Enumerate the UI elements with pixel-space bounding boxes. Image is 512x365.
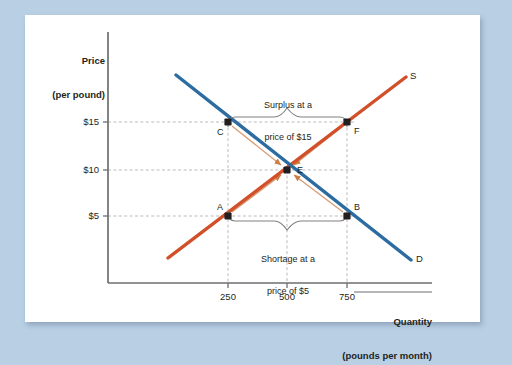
y-axis-title: Price (per pound) — [31, 33, 105, 123]
surplus-annotation: Surplus at a price of $15 — [238, 79, 338, 164]
surplus-annotation-line2: price of $15 — [238, 132, 338, 143]
point-label-b: B — [354, 202, 360, 213]
point-marker-b[interactable] — [343, 212, 350, 219]
shortage-brace — [228, 211, 347, 230]
shortage-annotation-line1: Shortage at a — [238, 254, 338, 265]
point-marker-f[interactable] — [343, 118, 350, 125]
point-label-f: F — [354, 126, 360, 137]
x-axis-title: Quantity (pounds per month) — [336, 294, 432, 365]
y-tick-label-15: $15 — [49, 116, 99, 127]
point-marker-a[interactable] — [224, 212, 231, 219]
shortage-annotation: Shortage at a price of $5 — [238, 233, 338, 318]
supply-curve-label: S — [410, 70, 416, 81]
y-axis-title-line1: Price — [31, 55, 105, 66]
y-tick-label-10: $10 — [49, 164, 99, 175]
arrow-b-to-e — [294, 175, 343, 212]
x-axis-title-line1: Quantity — [336, 316, 432, 327]
surplus-annotation-line1: Surplus at a — [238, 100, 338, 111]
x-axis-title-line2: (pounds per month) — [336, 350, 432, 361]
point-label-a: A — [217, 202, 223, 213]
point-marker-c[interactable] — [224, 118, 231, 125]
arrow-a-to-e — [232, 175, 281, 212]
point-marker-e[interactable] — [283, 166, 290, 173]
y-tick-label-5: $5 — [49, 210, 99, 221]
shortage-annotation-line2: price of $5 — [238, 286, 338, 297]
figure-card: Price (per pound) Quantity (pounds per m… — [25, 15, 480, 322]
y-axis-title-line2: (per pound) — [31, 89, 105, 100]
demand-curve-label: D — [416, 253, 423, 264]
point-label-c: C — [217, 127, 224, 138]
point-label-e: E — [297, 165, 303, 176]
